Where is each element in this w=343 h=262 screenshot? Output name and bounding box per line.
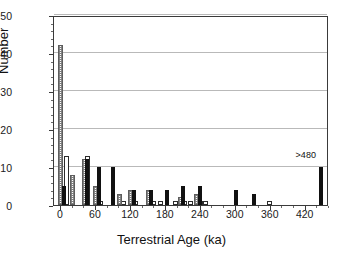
x-minor-tick-320 xyxy=(246,206,247,208)
x-minor-tick-160 xyxy=(153,206,154,208)
bar-solid-125 xyxy=(132,190,136,205)
y-tick-label-30: 30 xyxy=(0,87,12,98)
bar-solid-6 xyxy=(62,186,66,205)
x-minor-tick-400 xyxy=(293,206,294,208)
bar-solid-210 xyxy=(181,186,185,205)
gridline-y-40 xyxy=(54,52,327,53)
gridline-y-50 xyxy=(54,14,327,15)
bar-solid-65 xyxy=(97,167,101,205)
y-tick-label-50: 50 xyxy=(0,11,12,22)
x-minor-tick-280 xyxy=(223,206,224,208)
bar-hatched-100 xyxy=(117,194,122,205)
y-tick-label-40: 40 xyxy=(0,49,12,60)
bar-solid-300 xyxy=(234,190,238,205)
y-tick-mark-0 xyxy=(49,206,53,207)
x-minor-tick-380 xyxy=(281,206,282,208)
x-minor-tick-40 xyxy=(83,206,84,208)
y-tick-label-0: 0 xyxy=(0,201,12,212)
bar-hatched-0 xyxy=(58,45,63,205)
x-minor-tick-220 xyxy=(188,206,189,208)
x-tick-mark-420 xyxy=(305,206,306,210)
bar-open-170 xyxy=(158,201,163,205)
figure: Number Terrestrial Age (ka) 01020304050 … xyxy=(0,0,343,262)
bar-solid-332 xyxy=(252,194,256,205)
gridline-y-20 xyxy=(54,128,327,129)
x-tick-mark-240 xyxy=(200,206,201,210)
bar-solid-45 xyxy=(85,159,89,205)
bar-hatched-20 xyxy=(70,175,75,205)
x-minor-tick-340 xyxy=(258,206,259,208)
x-tick-mark-300 xyxy=(235,206,236,210)
x-minor-tick-80 xyxy=(107,206,108,208)
x-minor-tick-100 xyxy=(118,206,119,208)
x-minor-tick-20 xyxy=(72,206,73,208)
gridline-y-30 xyxy=(54,90,327,91)
x-tick-mark-0 xyxy=(60,206,61,210)
bar-open-222 xyxy=(188,201,193,205)
annotation-greater-than-480: >480 xyxy=(295,150,316,160)
bar-solid-182 xyxy=(165,190,169,205)
bar-solid-90 xyxy=(111,167,115,205)
bar-open-248 xyxy=(203,201,208,205)
x-tick-mark-180 xyxy=(165,206,166,210)
bar-solid-238 xyxy=(198,186,202,205)
x-minor-tick-440 xyxy=(316,206,317,208)
bar-open-196 xyxy=(173,201,178,205)
bar-solid-447 xyxy=(319,167,323,205)
bar-solid-155 xyxy=(149,190,153,205)
y-tick-label-10: 10 xyxy=(0,163,12,174)
x-tick-mark-360 xyxy=(270,206,271,210)
x-minor-tick-260 xyxy=(211,206,212,208)
x-minor-tick-460 xyxy=(328,206,329,208)
bar-open-358 xyxy=(267,201,272,205)
x-tick-mark-60 xyxy=(95,206,96,210)
x-minor-tick-200 xyxy=(177,206,178,208)
bar-open-108 xyxy=(121,201,126,205)
x-axis-label: Terrestrial Age (ka) xyxy=(0,232,343,247)
plot-area: >480 xyxy=(53,16,328,206)
x-tick-mark-120 xyxy=(130,206,131,210)
y-tick-label-20: 20 xyxy=(0,125,12,136)
x-tick-label-420: 420 xyxy=(285,209,325,220)
x-minor-tick-140 xyxy=(142,206,143,208)
gridline-y-10 xyxy=(54,166,327,167)
